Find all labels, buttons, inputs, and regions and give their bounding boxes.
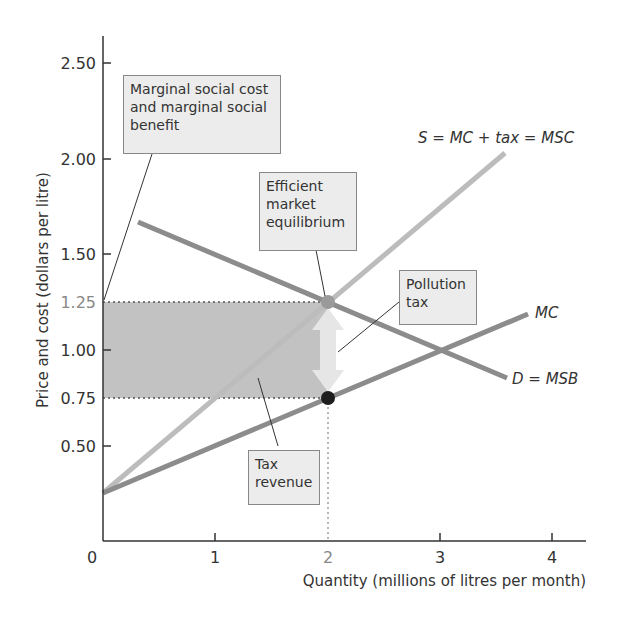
x-tick-2: 2 (323, 548, 333, 567)
callout-equilibrium: Efficient market equilibrium (259, 172, 357, 251)
callout-msc-msb: Marginal social cost and marginal social… (123, 75, 281, 154)
y-tick-1-50: 1.50 (60, 245, 96, 264)
y-tick-2-00: 2.00 (60, 150, 96, 169)
x-tick-3: 3 (435, 548, 445, 567)
y-tick-2-50: 2.50 (60, 54, 96, 73)
equilibrium-point (321, 295, 335, 309)
tax-revenue-area (103, 302, 328, 398)
x-ticks (215, 533, 552, 541)
mc-curve-label: MC (535, 304, 559, 322)
x-tick-1: 1 (210, 548, 220, 567)
chart: 2.50 2.00 1.50 1.25 1.00 0.75 0.50 0 1 2… (0, 0, 619, 626)
mc-point (321, 391, 335, 405)
leader-equilibrium (316, 250, 325, 296)
x-tick-4: 4 (547, 548, 557, 567)
x-tick-0: 0 (87, 548, 97, 567)
x-axis-title: Quantity (millions of litres per month) (303, 572, 586, 590)
callout-pollution-tax: Pollution tax (399, 270, 477, 325)
msb-curve-label: D = MSB (512, 370, 578, 388)
y-axis-title: Price and cost (dollars per litre) (34, 172, 52, 408)
callout-tax-revenue: Tax revenue (248, 450, 320, 505)
y-tick-0-50: 0.50 (60, 437, 96, 456)
y-tick-0-75: 0.75 (60, 389, 96, 408)
y-tick-1-25: 1.25 (60, 293, 96, 312)
msc-curve-label: S = MC + tax = MSC (418, 129, 575, 147)
y-tick-1-00: 1.00 (60, 341, 96, 360)
